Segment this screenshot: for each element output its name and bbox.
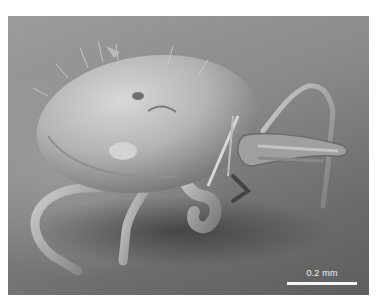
scale-bar-label: 0.2 mm [287,268,357,279]
sem-micrograph: 0.2 mm [8,16,369,295]
body-debris [109,142,137,160]
scale-bar-line [287,282,357,285]
mite-shadow [28,196,328,266]
leg-right-under [233,176,248,201]
mite-illustration [8,16,369,295]
scale-bar: 0.2 mm [287,268,357,285]
body-spot [132,92,144,100]
